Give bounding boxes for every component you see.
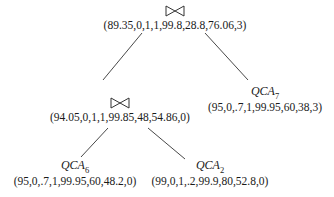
edge-root-qca7: [205, 33, 248, 80]
qca7-values: (95,0,.7,1,99.95,60,38,3): [198, 101, 332, 113]
qca2-values: (99,0,1,.2,99.9,80,52.8,0): [140, 175, 280, 187]
qca6-node: QCA6 (95,0,.7,1,99.95,60,48.2,0): [0, 159, 150, 187]
edge-inner-join-qca6: [81, 128, 108, 157]
bowtie-join-icon: [165, 5, 185, 17]
bowtie-join-icon: [110, 97, 130, 109]
qca2-label: QCA2: [140, 159, 280, 175]
edge-inner-join-qca2: [148, 128, 185, 159]
qca6-values: (95,0,.7,1,99.95,60,48.2,0): [0, 175, 150, 187]
inner-join-values: (94.05,0,1,1,99.85,48,54.86,0): [20, 111, 220, 123]
edge-root-inner-join: [103, 33, 142, 80]
root-join-values: (89.35,0,1,1,99.8,28.8,76.06,3): [80, 19, 270, 31]
root-join-node: (89.35,0,1,1,99.8,28.8,76.06,3): [80, 5, 270, 31]
qca2-node: QCA2 (99,0,1,.2,99.9,80,52.8,0): [140, 159, 280, 187]
qca7-label: QCA7: [198, 85, 332, 101]
qca7-node: QCA7 (95,0,.7,1,99.95,60,38,3): [198, 85, 332, 113]
qca6-label: QCA6: [0, 159, 150, 175]
inner-join-node: (94.05,0,1,1,99.85,48,54.86,0): [20, 97, 220, 123]
